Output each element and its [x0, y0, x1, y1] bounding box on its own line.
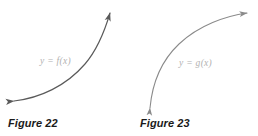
- figure-23-caption: Figure 23: [140, 118, 190, 129]
- figure-panel: y = f(x) Figure 22 y = g(x) Figure 23: [0, 0, 258, 136]
- figure-22: y = f(x) Figure 22: [0, 0, 129, 136]
- figure-23: y = g(x) Figure 23: [129, 0, 258, 136]
- figure-23-curve-label: y = g(x): [179, 59, 212, 69]
- figure-22-caption: Figure 22: [8, 118, 58, 129]
- figure-22-curve-label: y = f(x): [40, 57, 71, 67]
- figure-22-curve-graphic: [0, 0, 129, 136]
